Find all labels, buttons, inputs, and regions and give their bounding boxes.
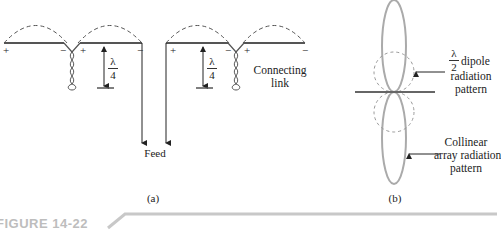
polarity-plus: +: [3, 44, 9, 56]
twisted-link-right: [232, 52, 240, 90]
polarity-plus: +: [244, 44, 250, 56]
polarity-minus: −: [225, 44, 231, 56]
polarity-minus: −: [137, 44, 143, 56]
quarter-wave-label: λ 4: [207, 56, 217, 81]
polarity-minus: −: [60, 44, 66, 56]
polarity-minus: −: [302, 44, 308, 56]
polarity-plus: +: [80, 44, 86, 56]
connecting-link-label: Connecting link: [244, 64, 316, 90]
panel-a-caption: (a): [140, 192, 166, 204]
polarity-plus: +: [170, 44, 176, 56]
panel-b-drawing: [355, 0, 445, 184]
panel-b-caption: (b): [382, 192, 408, 204]
figure-banner-line: [108, 214, 497, 228]
feed-label: Feed: [138, 147, 172, 159]
quarter-wave-label: λ 4: [108, 56, 118, 81]
twisted-link-left: [68, 52, 76, 90]
dipole-label-line1: dipole: [461, 55, 490, 67]
figure-label: FIGURE 14-22: [0, 216, 88, 231]
collinear-label: Collinear array radiation pattern: [434, 136, 498, 175]
dipole-label-rest: radiation pattern: [446, 70, 496, 96]
